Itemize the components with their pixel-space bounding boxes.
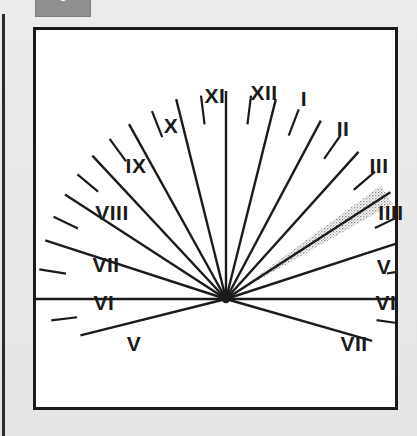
half-hour-tick — [377, 320, 395, 324]
hour-numeral-lower-right-vii: VII — [340, 333, 367, 354]
hour-numeral-right-vi: VI — [376, 292, 397, 313]
hour-line-viii — [65, 194, 226, 299]
half-hour-tick — [51, 317, 77, 320]
half-hour-tick — [77, 174, 98, 191]
hour-numeral-right-v: V — [377, 256, 392, 277]
figure-number-label: 6 — [36, 0, 90, 3]
hour-numeral-right-iiii: IIII — [378, 202, 403, 223]
hour-numeral-top-xii: XII — [250, 82, 277, 103]
nodus-dot — [222, 295, 230, 303]
hour-numeral-lower-left-v: V — [127, 333, 142, 354]
hour-numeral-upper-left-ix: IX — [126, 155, 147, 176]
half-hour-tick — [152, 111, 162, 137]
half-hour-tick — [289, 109, 299, 135]
half-hour-tick — [110, 139, 126, 162]
hour-numeral-left-vi: VI — [94, 292, 115, 313]
figure-number-badge: 6 — [35, 0, 91, 17]
hour-numeral-upper-right-ii: II — [337, 118, 350, 139]
hour-numeral-left-viii: VIII — [95, 202, 129, 223]
nodus-point — [222, 295, 230, 303]
hour-numeral-left-vii: VII — [92, 254, 119, 275]
hour-numeral-upper-left-x: X — [164, 115, 179, 136]
screenshot-root: 6 XIXIIIXIIIXIIIVIIIIIIIVIIVVIVIVVII — [0, 0, 417, 436]
half-hour-tick — [39, 269, 66, 273]
hour-line-xi — [176, 99, 226, 299]
hour-numeral-upper-right-iii: III — [369, 155, 388, 176]
page-gutter-rule — [2, 14, 5, 436]
sundial-figure-frame: XIXIIIXIIIXIIIVIIIIIIIVIIVVIVIVVII — [33, 27, 398, 410]
hour-numeral-top-i: I — [301, 88, 307, 109]
hour-numeral-top-xi: XI — [205, 85, 226, 106]
half-hour-tick — [54, 217, 78, 229]
